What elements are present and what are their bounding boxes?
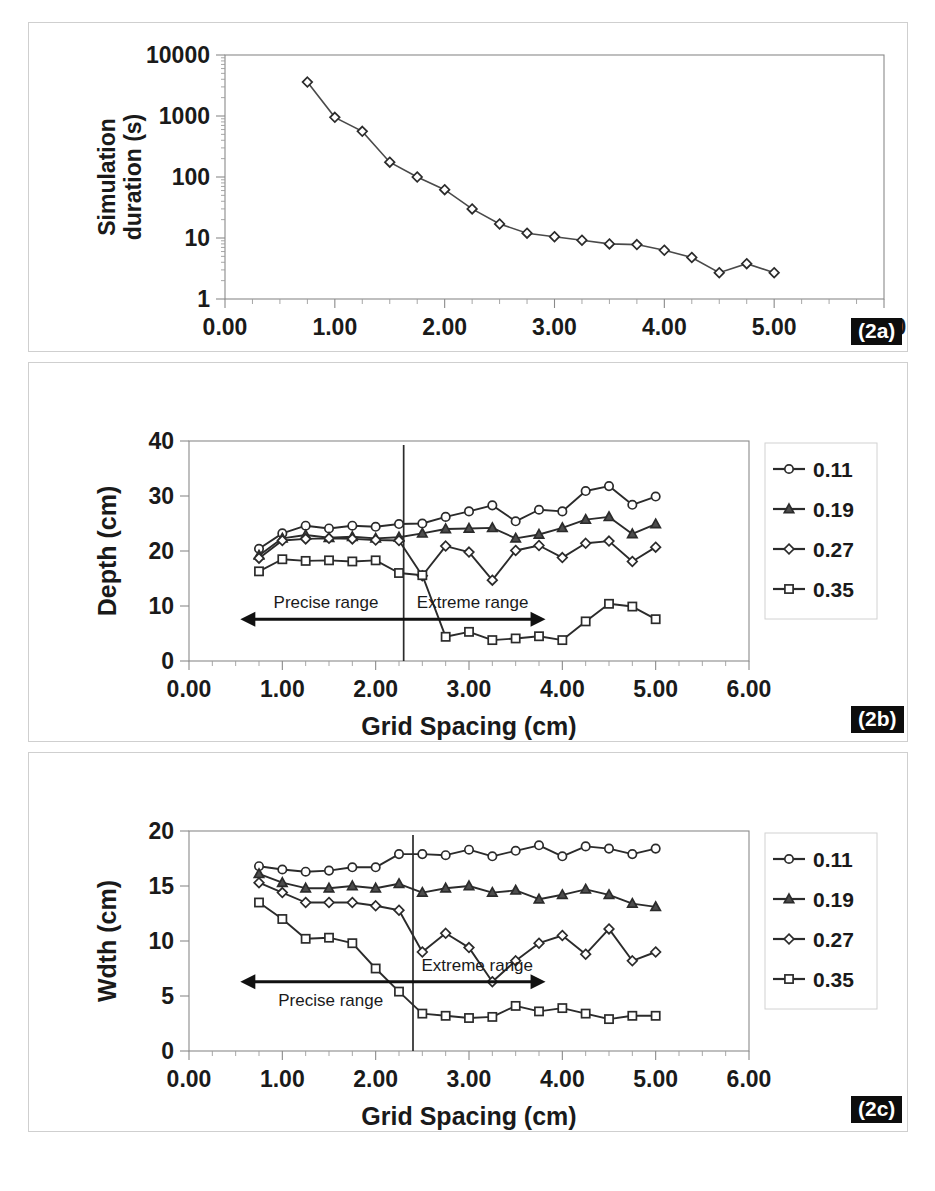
data-marker: [534, 541, 544, 551]
legend-entry-label: 0.19: [813, 888, 854, 911]
data-marker: [628, 602, 636, 610]
y-tick-label: 1: [197, 286, 210, 312]
data-marker: [465, 1014, 473, 1022]
data-marker: [628, 850, 636, 858]
data-marker: [651, 492, 659, 500]
data-marker: [581, 842, 589, 850]
x-tick-label: 0.00: [203, 314, 248, 340]
data-marker: [628, 501, 636, 509]
y-tick-label: 100: [172, 164, 210, 190]
data-marker: [581, 487, 589, 495]
data-marker: [628, 899, 637, 908]
data-marker: [395, 988, 403, 996]
x-tick-label: 5.00: [633, 676, 678, 702]
data-marker: [660, 245, 670, 255]
data-marker: [395, 569, 403, 577]
precise-range-label: Precise range: [278, 991, 383, 1010]
data-marker: [371, 863, 379, 871]
y-axis-title: Wdth (cm): [93, 880, 121, 1002]
data-marker: [512, 1002, 520, 1010]
extreme-range-label: Extreme range: [417, 593, 529, 612]
data-marker: [464, 524, 473, 533]
data-marker: [254, 869, 263, 878]
data-marker: [581, 539, 591, 549]
y-tick-label: 20: [148, 538, 174, 564]
x-tick-label: 6.00: [727, 676, 772, 702]
y-tick-label: 20: [148, 818, 174, 844]
y-tick-label: 0: [161, 1038, 174, 1064]
data-marker: [278, 865, 286, 873]
y-tick-label: 0: [161, 648, 174, 674]
data-marker: [785, 585, 793, 593]
x-tick-label: 2.00: [353, 676, 398, 702]
y-tick-label: 15: [148, 873, 174, 899]
data-marker: [558, 890, 567, 899]
data-marker: [511, 533, 520, 542]
data-marker: [582, 617, 590, 625]
data-series-line: [259, 538, 656, 580]
panel-label-2b: (2b): [851, 706, 904, 733]
data-marker: [467, 204, 477, 214]
x-tick-label: 6.00: [727, 1066, 772, 1092]
data-marker: [522, 228, 532, 238]
data-marker: [395, 520, 403, 528]
data-marker: [558, 553, 568, 563]
data-marker: [488, 636, 496, 644]
figure-page: 1101001000100000.001.002.003.004.005.006…: [0, 0, 935, 1191]
legend-entry-label: 0.35: [813, 968, 854, 991]
y-tick-label: 5: [161, 983, 174, 1009]
x-tick-label: 1.00: [260, 676, 305, 702]
x-tick-label: 4.00: [540, 1066, 585, 1092]
y-axis-title: Depth (cm): [93, 486, 121, 617]
data-marker: [301, 883, 310, 892]
extreme-range-label: Extreme range: [422, 956, 534, 975]
data-marker: [558, 507, 566, 515]
x-tick-label: 1.00: [260, 1066, 305, 1092]
data-marker: [465, 846, 473, 854]
data-marker: [465, 628, 473, 636]
chart-panel-2c: 051015200.001.002.003.004.005.006.00Grid…: [28, 752, 908, 1132]
data-marker: [442, 633, 450, 641]
data-marker: [577, 235, 587, 245]
legend-entry-label: 0.11: [813, 458, 853, 481]
data-marker: [652, 1012, 660, 1020]
data-marker: [582, 1010, 590, 1018]
x-axis-title: Grid Spacing (cm): [447, 350, 662, 353]
data-marker: [418, 888, 427, 897]
data-marker: [785, 465, 793, 473]
chart-2a-svg: 1101001000100000.001.002.003.004.005.006…: [29, 23, 909, 353]
data-marker: [785, 855, 793, 863]
data-marker: [488, 523, 497, 532]
chart-2c-canvas: 051015200.001.002.003.004.005.006.00Grid…: [29, 753, 907, 1131]
x-tick-label: 2.00: [422, 314, 467, 340]
data-marker: [418, 850, 426, 858]
y-tick-label: 10000: [146, 42, 210, 68]
x-tick-label: 3.00: [447, 676, 492, 702]
data-marker: [412, 172, 422, 182]
data-marker: [441, 883, 450, 892]
data-marker: [488, 501, 496, 509]
data-marker: [651, 902, 660, 911]
data-marker: [558, 636, 566, 644]
data-series-line: [307, 82, 774, 273]
legend-entry-label: 0.27: [813, 538, 854, 561]
chart-2c-svg: 051015200.001.002.003.004.005.006.00Grid…: [29, 753, 909, 1133]
data-marker: [512, 634, 520, 642]
data-marker: [511, 517, 519, 525]
data-marker: [418, 571, 426, 579]
data-marker: [651, 844, 659, 852]
chart-2b-svg: 0102030400.001.002.003.004.005.006.00Gri…: [29, 363, 909, 743]
x-axis-title: Grid Spacing (cm): [361, 712, 576, 740]
data-marker: [348, 557, 356, 565]
data-marker: [395, 850, 403, 858]
x-tick-label: 3.00: [532, 314, 577, 340]
legend-entry-label: 0.11: [813, 848, 853, 871]
data-marker: [511, 886, 520, 895]
data-marker: [558, 523, 567, 532]
data-marker: [628, 1012, 636, 1020]
x-tick-label: 5.00: [633, 1066, 678, 1092]
x-tick-label: 4.00: [642, 314, 687, 340]
y-tick-label: 10: [148, 928, 174, 954]
legend-entry-label: 0.27: [813, 928, 854, 951]
chart-2a-canvas: 1101001000100000.001.002.003.004.005.006…: [29, 23, 907, 351]
